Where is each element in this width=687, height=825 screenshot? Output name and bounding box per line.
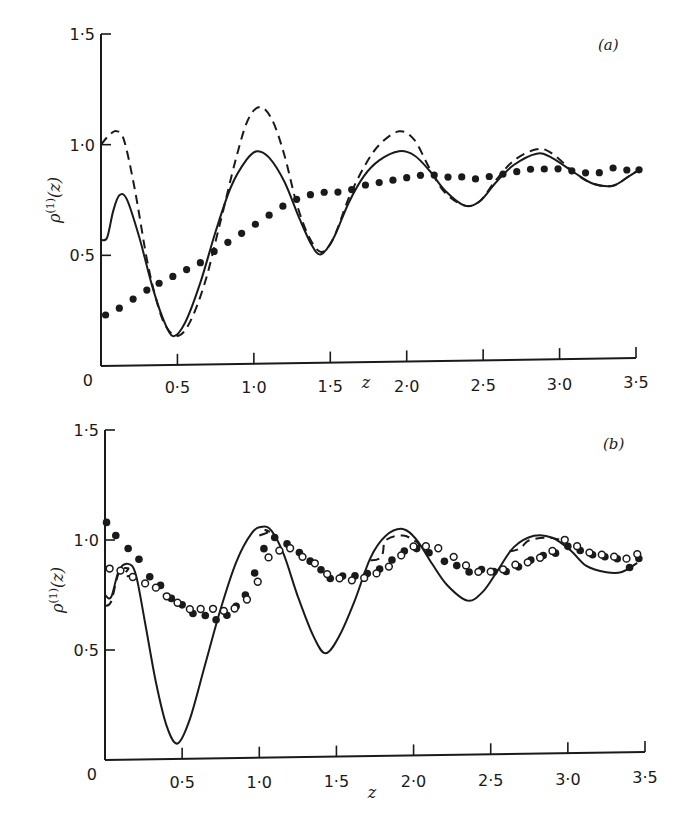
open-circle-marker [537,554,544,561]
open-circle-marker [186,606,193,613]
series-b [103,519,643,744]
open-circle-marker [435,545,442,552]
open-circle-marker [398,552,405,559]
filled-circle-marker [635,166,642,173]
solid-curve [105,526,637,743]
filled-circle-marker [554,165,561,172]
series-a [101,107,643,336]
y-title-rho: ρ [45,213,64,224]
open-circle-marker [410,543,417,550]
filled-circle-marker [260,545,268,553]
filled-circle-marker [252,221,259,228]
svg-text:ρ(1)(z): ρ(1)(z) [44,177,64,224]
panel-label-b: (b) [603,435,624,453]
filled-circle-marker [197,259,204,266]
open-circle-marker [598,551,605,558]
filled-circle-marker [266,212,273,219]
x-tick-label: 0·5 [165,378,190,397]
y-tick-label: 0 [83,371,93,390]
open-circle-marker [254,578,261,585]
open-circle-marker [153,584,160,591]
filled-circle-marker [453,562,461,570]
y-title-arg: (z) [48,567,67,588]
y-tick-label: 1·0 [70,136,95,155]
y-axis-title-b: ρ(1)(z) [47,567,67,614]
filled-circle-marker [321,189,328,196]
axes-a: 00·51·01·50·51·01·52·02·53·03·5 [70,25,649,397]
filled-circle-marker [458,173,465,180]
open-circle-marker [561,536,568,543]
filled-circle-marker [279,203,286,210]
open-circle-marker [450,553,457,560]
filled-circle-marker [130,296,137,303]
filled-circle-marker [568,167,575,174]
open-circle-marker [361,575,368,582]
open-circle-marker [348,577,355,584]
filled-circle-marker [155,280,162,287]
filled-circle-marker [348,186,355,193]
y-tick-label: 0·5 [70,246,95,265]
open-circle-marker [423,543,430,550]
y-title-sup: (1) [44,198,57,214]
filled-circle-marker [472,175,479,182]
filled-circle-marker [124,545,132,553]
x-tick-label: 3·5 [623,373,648,392]
y-tick-label: 1·5 [74,421,99,440]
axes-b: 00·51·01·50·51·01·52·02·53·03·5 [74,421,658,792]
filled-circle-marker [307,191,314,198]
filled-circle-marker [251,569,259,577]
open-circle-marker [106,565,113,572]
y-tick-label: 1·5 [70,25,95,44]
open-circle-marker [549,548,556,555]
filled-circle-marker [499,170,506,177]
filled-circle-marker [102,311,109,318]
filled-circle-marker [362,181,369,188]
filled-circle-marker [169,273,176,280]
svg-text:ρ(1)(z): ρ(1)(z) [47,567,67,614]
y-title-rho: ρ [48,603,67,614]
x-axis-title-a: z [361,373,371,392]
open-circle-marker [276,547,283,554]
open-circle-marker [634,551,641,558]
open-circle-marker [210,605,217,612]
x-tick-label: 3·5 [632,768,657,787]
filled-circle-marker [431,171,438,178]
open-circle-marker [231,605,238,612]
x-tick-label: 2·5 [470,376,495,395]
y-axis-title-a: ρ(1)(z) [44,177,64,224]
filled-circle-marker [334,188,341,195]
y-tick-label: 1·0 [74,531,99,550]
x-tick-label: 3·0 [547,375,572,394]
x-tick-label: 3·0 [555,770,580,789]
x-tick-label: 1·0 [241,378,266,397]
filled-circle-marker [116,305,123,312]
open-circle-marker [487,568,494,575]
open-circle-marker [287,545,294,552]
filled-circle-marker [441,558,449,566]
filled-circle-marker [271,534,279,542]
filled-circle-marker [623,166,630,173]
x-tick-label: 2·0 [394,377,419,396]
open-circle-marker [163,593,170,600]
filled-circle-marker [527,166,534,173]
x-tick-label: 1·0 [247,773,272,792]
filled-circle-marker [582,169,589,176]
filled-circle-marker [224,239,231,246]
open-circle-marker [623,555,630,562]
filled-circle-marker [389,177,396,184]
filled-circle-marker [143,286,150,293]
filled-circle-marker [293,196,300,203]
filled-circle-marker [146,573,154,581]
open-circle-marker [512,561,519,568]
open-circle-marker [311,560,318,567]
open-circle-marker [336,575,343,582]
x-axis-title-b: z [367,783,377,802]
x-tick-label: 2·0 [401,772,426,791]
filled-circle-marker [596,169,603,176]
x-tick-label: 0·5 [169,773,194,792]
open-circle-marker [574,543,581,550]
open-circle-marker [244,596,251,603]
open-circle-marker [373,570,380,577]
y-tick-label: 0·5 [74,641,99,660]
open-circle-marker [385,563,392,570]
